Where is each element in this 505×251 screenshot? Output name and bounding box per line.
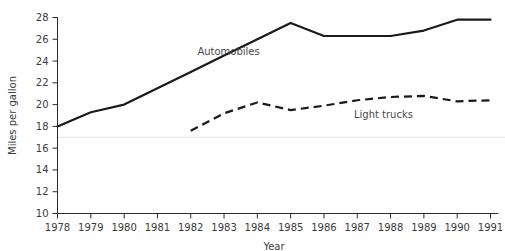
- series-annotation-light-trucks: Light trucks: [354, 109, 413, 120]
- x-tick-label: 1983: [211, 222, 236, 233]
- y-tick-label: 28: [36, 12, 49, 23]
- x-tick-label: 1984: [245, 222, 270, 233]
- series-annotation-automobiles: Automobiles: [197, 46, 259, 57]
- series-line-light-trucks: [191, 96, 491, 131]
- x-tick-label: 1989: [411, 222, 436, 233]
- x-tick-label: 1988: [378, 222, 403, 233]
- y-axis-tick-labels: 10121416182022242628: [36, 12, 49, 219]
- y-tick-label: 18: [36, 121, 49, 132]
- chart-plot-area: 10121416182022242628 1978197919801981198…: [0, 0, 505, 251]
- x-tick-label: 1980: [111, 222, 136, 233]
- x-axis-title: Year: [262, 241, 285, 251]
- x-tick-label: 1981: [145, 222, 170, 233]
- x-tick-label: 1979: [78, 222, 103, 233]
- y-tick-label: 16: [36, 143, 49, 154]
- x-axis-tick-labels: 1978197919801981198219831984198519861987…: [45, 222, 503, 233]
- y-tick-label: 22: [36, 77, 49, 88]
- y-tick-label: 20: [36, 99, 49, 110]
- y-tick-label: 10: [36, 208, 49, 219]
- x-tick-label: 1978: [45, 222, 70, 233]
- y-axis-ticks: [53, 18, 58, 214]
- y-tick-label: 14: [36, 164, 49, 175]
- x-tick-label: 1987: [345, 222, 370, 233]
- mpg-line-chart: 10121416182022242628 1978197919801981198…: [0, 0, 505, 251]
- x-tick-label: 1990: [444, 222, 469, 233]
- x-axis-ticks: [58, 214, 491, 219]
- y-axis-title: Miles per gallon: [7, 76, 18, 155]
- y-tick-label: 24: [36, 56, 49, 67]
- x-tick-label: 1982: [178, 222, 203, 233]
- y-tick-label: 12: [36, 186, 49, 197]
- x-tick-label: 1985: [278, 222, 303, 233]
- x-tick-label: 1991: [478, 222, 503, 233]
- series-line-automobiles: [58, 20, 491, 127]
- y-tick-label: 26: [36, 34, 49, 45]
- x-tick-label: 1986: [311, 222, 336, 233]
